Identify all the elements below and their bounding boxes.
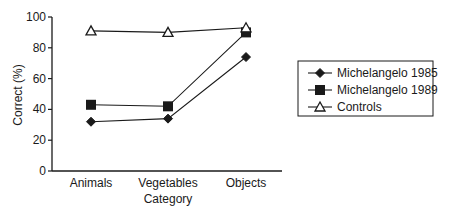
y-tick-label: 20 (33, 133, 47, 147)
series-michelangelo-1989 (86, 27, 251, 111)
legend-label: Michelangelo 1989 (337, 83, 438, 97)
series-layer (86, 23, 251, 126)
x-tick-label: Objects (226, 176, 267, 190)
series-line (91, 32, 246, 106)
line-chart: 020406080100AnimalsVegetablesObjects Cor… (0, 0, 452, 211)
triangle-marker (241, 23, 251, 32)
square-marker (315, 85, 325, 95)
x-tick-label: Vegetables (138, 176, 197, 190)
series-line (91, 57, 246, 122)
series-controls (86, 23, 251, 37)
legend-label: Michelangelo 1985 (337, 66, 438, 80)
y-tick-label: 60 (33, 72, 47, 86)
series-michelangelo-1985 (87, 53, 251, 127)
y-tick-label: 100 (26, 10, 46, 24)
x-tick-label: Animals (70, 176, 113, 190)
y-tick-label: 80 (33, 41, 47, 55)
legend-label: Controls (337, 100, 382, 114)
square-marker (163, 101, 173, 111)
y-tick-label: 40 (33, 102, 47, 116)
triangle-marker (86, 26, 96, 35)
x-axis-title: Category (144, 192, 193, 206)
legend: Michelangelo 1985Michelangelo 1989Contro… (298, 61, 438, 116)
y-tick-label: 0 (39, 164, 46, 178)
y-axis-title: Correct (%) (11, 64, 25, 125)
square-marker (86, 100, 96, 110)
diamond-marker (87, 117, 96, 126)
